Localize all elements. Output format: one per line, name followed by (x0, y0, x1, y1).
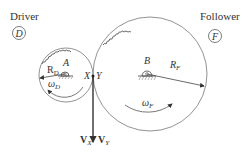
driver-center-label: A (62, 57, 70, 68)
driver-omega-label: ωD (48, 78, 60, 91)
gear-train-diagram: Driver D Follower F A B RD RF ωD ωF X Y … (0, 0, 251, 154)
follower-radius-label: RF (169, 59, 181, 72)
follower-omega-label: ωF (142, 97, 154, 110)
follower-gear (93, 17, 207, 131)
contact-point (92, 75, 95, 78)
follower-title: Follower (200, 10, 240, 22)
contact-x-label: X (83, 70, 91, 81)
follower-center-label: B (144, 55, 150, 66)
follower-teeth (103, 31, 131, 45)
driver-pivot-icon (58, 72, 73, 79)
driver-title: Driver (10, 10, 39, 22)
vx-label: VX (80, 134, 92, 147)
vy-label: VY (98, 134, 110, 147)
follower-radius-arrow (147, 74, 204, 86)
driver-symbol: D (14, 28, 23, 39)
driver-radius-label: RD (47, 64, 59, 77)
follower-symbol: F (211, 31, 219, 42)
contact-y-label: Y (96, 70, 103, 81)
